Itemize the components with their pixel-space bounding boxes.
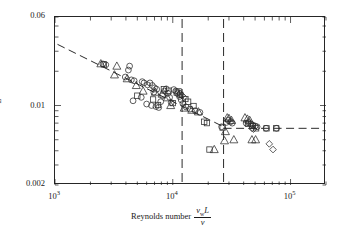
data-point-triangle — [210, 145, 218, 152]
data-point-circle — [138, 94, 144, 100]
data-point-circle — [127, 63, 133, 69]
series-triangles — [97, 60, 260, 153]
data-point-square — [150, 97, 155, 102]
data-point-circle — [126, 67, 132, 73]
y-tick-label-bottom: 0.002 — [0, 179, 45, 188]
x-axis-title: Reynolds number vwL ν — [0, 207, 342, 228]
x-tick-label-1e3: 103 — [40, 190, 68, 200]
data-point-circle — [130, 98, 136, 104]
plot-area — [54, 16, 325, 184]
data-point-diamond — [270, 146, 277, 153]
data-point-square — [207, 147, 212, 152]
y-tick-label-mid: 0.01 — [0, 101, 45, 110]
data-point-triangle — [230, 136, 238, 143]
data-point-circle — [141, 80, 147, 86]
x-tick-label-1e4: 104 — [158, 190, 186, 200]
trend-line — [57, 44, 223, 126]
chart-figure: As L2 0.06 0.01 0.002 Stable Transition … — [0, 0, 342, 235]
y-tick-label-top: 0.06 — [0, 11, 45, 20]
x-tick-label-1e5: 105 — [276, 190, 304, 200]
data-point-triangle — [113, 62, 121, 69]
data-point-diamond — [266, 141, 273, 148]
data-point-triangle — [221, 137, 229, 144]
trend-lines — [57, 44, 323, 128]
plot-svg — [55, 17, 326, 185]
